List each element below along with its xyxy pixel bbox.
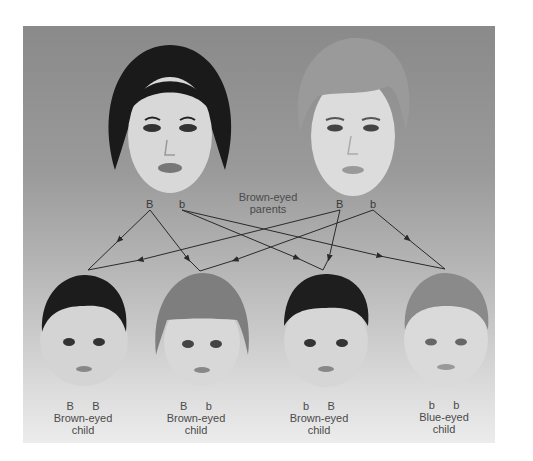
child-phenotype-line1: Brown-eyed (33, 412, 133, 424)
mother-allele-2: b (179, 198, 185, 210)
child-label-2: B b Brown-eyed child (146, 400, 246, 436)
parents-label: Brown-eyed parents (228, 191, 308, 215)
child-alleles: b B (269, 400, 369, 412)
child-phenotype-line2: child (269, 424, 369, 436)
mother-allele-1: B (146, 198, 153, 210)
child-label-4: b b Blue-eyed child (394, 399, 494, 435)
parents-label-line2: parents (228, 203, 308, 215)
child-alleles: b b (394, 399, 494, 411)
child-label-3: b B Brown-eyed child (269, 400, 369, 436)
child-phenotype-line1: Brown-eyed (269, 412, 369, 424)
child-phenotype-line2: child (146, 424, 246, 436)
child-alleles: B B (33, 400, 133, 412)
parents-label-line1: Brown-eyed (228, 191, 308, 203)
inheritance-arrows (0, 0, 533, 461)
child-label-1: B B Brown-eyed child (33, 400, 133, 436)
child-phenotype-line2: child (33, 424, 133, 436)
father-allele-2: b (370, 198, 376, 210)
father-allele-1: B (336, 198, 343, 210)
child-phenotype-line1: Brown-eyed (146, 412, 246, 424)
child-phenotype-line1: Blue-eyed (394, 411, 494, 423)
child-phenotype-line2: child (394, 423, 494, 435)
child-alleles: B b (146, 400, 246, 412)
